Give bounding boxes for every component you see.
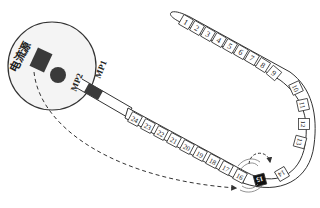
- mp2-dot-icon: [50, 67, 66, 83]
- segment-cell-11: 11: [296, 98, 309, 111]
- segment-cells: 123456789101112131415161718192021222324: [128, 14, 310, 186]
- segment-cell-15: 15: [253, 173, 266, 186]
- segment-cell-12: 12: [299, 119, 310, 130]
- segment-cell-9: 9: [266, 65, 281, 80]
- electrode-shaft: [77, 79, 132, 117]
- segment-cell-13: 13: [293, 135, 306, 148]
- segment-cell-14: 14: [274, 166, 289, 181]
- svg-text:12: 12: [299, 121, 307, 129]
- electrode-diagram: 电流源 MP2 MP1 1234567891011121314151617181…: [0, 0, 320, 208]
